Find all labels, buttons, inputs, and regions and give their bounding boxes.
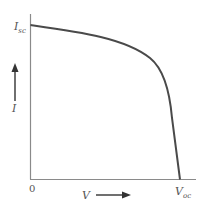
iv-curve [31, 25, 181, 180]
isc-label: Isc [13, 20, 26, 35]
iv-curve-diagram: Isc Voc 0 I V [0, 0, 208, 209]
voltage-direction-arrow [96, 192, 131, 199]
current-direction-arrow [12, 63, 19, 101]
y-axis-label: I [11, 102, 17, 115]
origin-label: 0 [29, 183, 35, 194]
x-axis-label: V [82, 189, 91, 202]
voc-label: Voc [175, 185, 191, 200]
